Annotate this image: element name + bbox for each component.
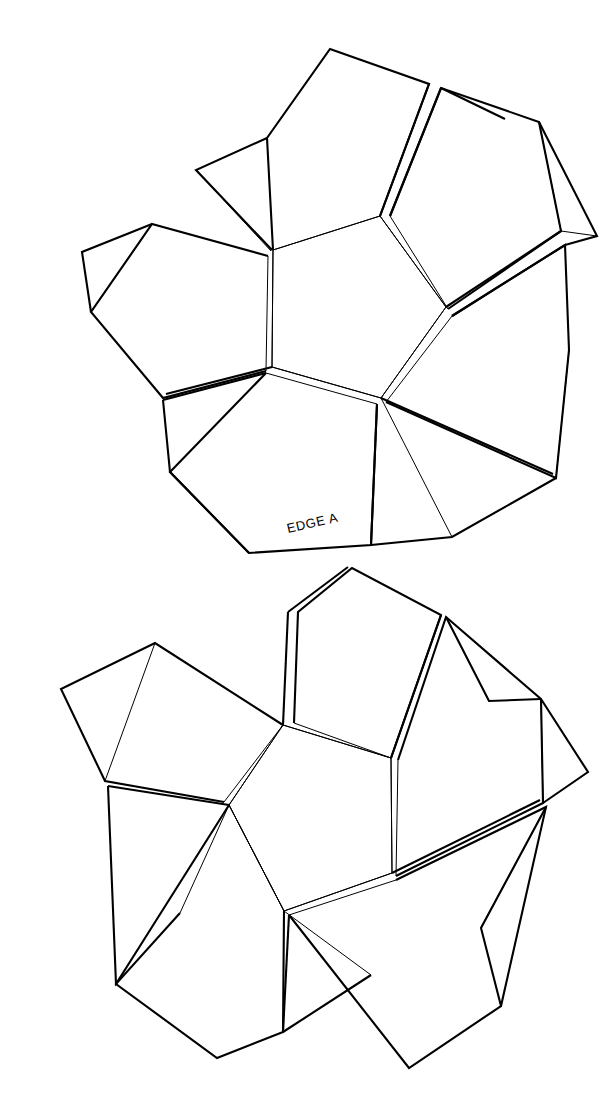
lower-half-net xyxy=(61,567,588,1068)
lower-tab-left xyxy=(108,786,180,984)
upper-fold-bottom-left-diag xyxy=(170,373,266,472)
upper-petal-left xyxy=(91,224,268,398)
upper-net-geometry xyxy=(94,49,566,541)
upper-fold-left-inner xyxy=(266,256,268,371)
upper-petal-right-lower xyxy=(386,245,569,478)
upper-tab-bottom-left xyxy=(163,400,249,553)
lower-petal-right xyxy=(396,617,543,876)
lower-fold-left-tab xyxy=(180,805,229,913)
net-template-sheet: EDGE A xyxy=(0,0,603,1118)
lower-petal-bottom-left xyxy=(116,805,284,1058)
upper-tab-upper-right xyxy=(441,88,505,119)
upper-flap-bottom-right xyxy=(371,478,556,545)
lower-net-geometry xyxy=(63,567,540,1066)
upper-fold-ur-right xyxy=(539,122,561,231)
upper-slit-ur-edge xyxy=(390,88,441,216)
upper-flap-left-point xyxy=(82,224,152,312)
lower-petal-left xyxy=(61,643,283,802)
lower-fold-top-inner xyxy=(294,723,391,758)
lower-net-center xyxy=(229,725,392,911)
upper-slit-bottom-right xyxy=(371,404,377,545)
upper-fold-rl-inner xyxy=(386,316,452,402)
lower-fold-left-inner xyxy=(224,725,283,802)
upper-slit-rl-edge xyxy=(452,245,565,316)
upper-flap-right-point xyxy=(539,122,597,245)
upper-fold-right-point xyxy=(561,231,597,236)
upper-fold-bottom-inner xyxy=(266,373,377,404)
upper-petal-bottom xyxy=(170,373,377,553)
upper-center-pentagon xyxy=(272,216,446,398)
edge-a-label: EDGE A xyxy=(285,510,339,536)
upper-fold-ur-inner xyxy=(390,216,448,309)
lower-petal-bottom-right xyxy=(289,807,546,1068)
upper-fold-bottom-right-diag xyxy=(381,398,452,537)
upper-net-center xyxy=(272,216,446,398)
net-diagram: EDGE A xyxy=(0,0,603,1118)
lower-fold-br-inner xyxy=(289,880,396,915)
upper-tab-top-left xyxy=(196,138,272,250)
upper-fold-bottom-right-flap xyxy=(452,478,556,537)
lower-fold-right-inner xyxy=(396,760,398,876)
lower-center-pentagon xyxy=(229,725,392,911)
lower-tab-bottom-right xyxy=(481,807,546,1006)
upper-half-net: EDGE A xyxy=(82,49,597,553)
lower-petal-top xyxy=(294,568,441,758)
lower-flap-right-point xyxy=(541,699,588,803)
upper-slit-bottom-left xyxy=(163,373,266,400)
lower-fold-upper-right-tab xyxy=(446,617,489,701)
upper-fold-rl-right xyxy=(556,350,569,478)
